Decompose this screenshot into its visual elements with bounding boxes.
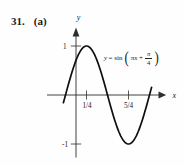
- tick-label-neg1: -1: [62, 141, 68, 149]
- equation-label: y = sin ( πx + π 4 ): [104, 47, 159, 69]
- tick-label-one-quarter: 1/4: [82, 102, 92, 110]
- tick-label-1: 1: [63, 43, 67, 51]
- equation-arg: πx: [131, 54, 138, 62]
- close-paren: ): [155, 50, 159, 66]
- open-paren: (: [125, 50, 129, 66]
- tick-label-five-quarters: 5/4: [124, 102, 134, 110]
- sine-graph: y x 1 -1 1/4 5/4: [0, 0, 184, 165]
- equation-lhs: y: [104, 54, 107, 62]
- x-axis-arrow-icon: [159, 92, 167, 99]
- y-axis-arrow-icon: [73, 27, 80, 36]
- equation-plus: +: [139, 54, 143, 62]
- textbook-figure: 31.(a) y x 1 -1 1/4 5/4 y = sin ( πx + π…: [0, 0, 184, 165]
- x-axis-label: x: [172, 91, 177, 100]
- fraction-numerator: π: [145, 50, 151, 59]
- equation-eq-sin: = sin: [109, 54, 123, 62]
- equation-fraction: π 4: [145, 50, 151, 66]
- fraction-denominator: 4: [147, 59, 150, 67]
- y-axis-label: y: [76, 13, 81, 22]
